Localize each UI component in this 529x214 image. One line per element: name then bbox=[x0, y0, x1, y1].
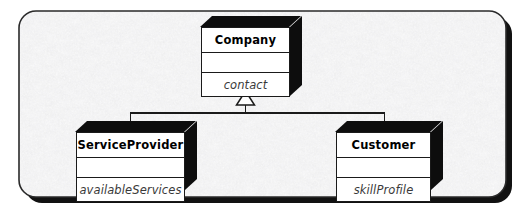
class-attribute-customer: skillProfile bbox=[337, 177, 430, 201]
customer-top-bevel bbox=[335, 121, 442, 132]
company-right-bevel bbox=[290, 16, 302, 96]
class-attribute-service-provider: availableServices bbox=[77, 177, 184, 201]
class-attribute-company: contact bbox=[202, 72, 289, 96]
class-box-company[interactable]: Company contact bbox=[201, 27, 290, 97]
class-box-customer[interactable]: Customer skillProfile bbox=[336, 132, 431, 202]
class-operations-customer bbox=[337, 157, 430, 177]
class-name-customer: Customer bbox=[337, 133, 430, 157]
class-name-service-provider: ServiceProvider bbox=[77, 133, 184, 157]
class-box-service-provider[interactable]: ServiceProvider availableServices bbox=[76, 132, 185, 202]
uml-class-diagram: UML Generalization Hierarchy bbox=[0, 0, 529, 214]
service-provider-top-bevel bbox=[75, 121, 196, 132]
company-top-bevel bbox=[200, 16, 301, 27]
class-operations-service-provider bbox=[77, 157, 184, 177]
class-operations-company bbox=[202, 52, 289, 72]
class-name-company: Company bbox=[202, 28, 289, 52]
customer-right-bevel bbox=[431, 121, 443, 190]
service-provider-right-bevel bbox=[185, 121, 197, 190]
